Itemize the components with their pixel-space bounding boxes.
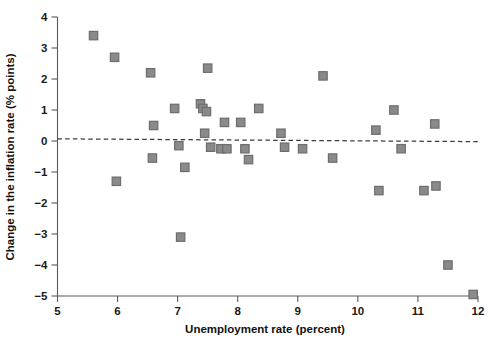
- data-point-marker: [200, 129, 208, 137]
- data-point-marker: [110, 53, 118, 61]
- data-point-marker: [241, 145, 249, 153]
- scatter-plot-figure: 43210−1−2−3−4−5 56789101112 Unemployment…: [0, 0, 500, 343]
- data-point-marker: [220, 118, 228, 126]
- data-point-marker: [175, 141, 183, 149]
- x-tick-label: 5: [54, 305, 61, 317]
- data-point-marker: [280, 143, 288, 151]
- data-point-marker: [372, 126, 380, 134]
- data-point-marker: [431, 120, 439, 128]
- x-tick-label: 7: [174, 305, 180, 317]
- data-point-marker: [170, 104, 178, 112]
- data-point-marker: [469, 290, 477, 298]
- data-point-marker: [206, 143, 214, 151]
- y-tick-label: 2: [41, 73, 47, 85]
- data-point-marker: [432, 182, 440, 190]
- y-tick-label: 4: [41, 11, 48, 23]
- data-point-marker: [148, 154, 156, 162]
- data-point-marker: [202, 107, 210, 115]
- data-point-marker: [244, 155, 252, 163]
- data-point-marker: [203, 64, 211, 72]
- x-tick-label: 6: [114, 305, 120, 317]
- x-tick-label: 11: [412, 305, 425, 317]
- x-axis-title: Unemployment rate (percent): [185, 323, 345, 335]
- y-tick-label: −2: [34, 197, 47, 209]
- x-tick-label: 8: [235, 305, 242, 317]
- data-point-marker: [112, 177, 120, 185]
- y-tick-label: 1: [41, 104, 48, 116]
- data-points: [89, 31, 477, 298]
- y-tick-label: −5: [34, 290, 48, 302]
- data-point-marker: [237, 118, 245, 126]
- data-point-marker: [277, 129, 285, 137]
- data-point-marker: [181, 163, 189, 171]
- x-axis-ticks: 56789101112: [54, 296, 484, 317]
- axes: [58, 17, 479, 296]
- data-point-marker: [319, 72, 327, 80]
- y-axis-title: Change in the inflation rate (% points): [4, 53, 16, 260]
- data-point-marker: [146, 69, 154, 77]
- data-point-marker: [89, 31, 97, 39]
- x-tick-label: 12: [472, 305, 485, 317]
- data-point-marker: [176, 233, 184, 241]
- y-tick-label: 0: [41, 135, 47, 147]
- x-tick-label: 10: [351, 305, 364, 317]
- data-point-marker: [375, 186, 383, 194]
- data-point-marker: [444, 261, 452, 269]
- y-tick-label: −4: [34, 259, 48, 271]
- data-point-marker: [328, 154, 336, 162]
- data-point-marker: [149, 121, 157, 129]
- x-tick-label: 9: [295, 305, 301, 317]
- data-point-marker: [298, 145, 306, 153]
- y-tick-label: −1: [34, 166, 48, 178]
- data-point-marker: [420, 186, 428, 194]
- y-axis-ticks: 43210−1−2−3−4−5: [34, 11, 57, 302]
- data-point-marker: [223, 145, 231, 153]
- chart-canvas: 43210−1−2−3−4−5 56789101112 Unemployment…: [0, 0, 500, 343]
- data-point-marker: [255, 104, 263, 112]
- data-point-marker: [397, 145, 405, 153]
- data-point-marker: [390, 106, 398, 114]
- regression-dashed-line: [58, 139, 479, 142]
- y-tick-label: −3: [34, 228, 47, 240]
- y-tick-label: 3: [41, 42, 47, 54]
